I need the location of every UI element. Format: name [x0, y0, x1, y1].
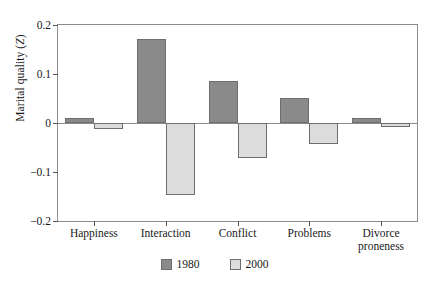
x-tick-mark — [381, 221, 382, 226]
bar-2000-conflict — [238, 123, 267, 158]
y-axis-title-italic: Z — [14, 38, 26, 45]
y-tick-label: 0 — [45, 117, 51, 129]
y-tick-label: 0.1 — [37, 68, 51, 80]
y-tick-mark — [53, 25, 58, 26]
legend-label: 1980 — [177, 258, 200, 270]
x-tick-label-line: proneness — [358, 240, 404, 253]
x-tick-label-line: Divorce — [363, 227, 400, 239]
x-tick-label-line: Conflict — [219, 227, 257, 239]
bar-1980-divorce-proneness — [352, 118, 381, 123]
x-tick-label-line: Happiness — [70, 227, 118, 239]
plot-area: 0.20.10−0.1−0.2HappinessInteractionConfl… — [58, 25, 417, 221]
y-tick-mark — [53, 221, 58, 222]
x-tick-label: Happiness — [70, 227, 118, 240]
bar-1980-interaction — [137, 39, 166, 123]
y-tick-mark — [53, 172, 58, 173]
x-tick-label-line: Interaction — [141, 227, 191, 239]
bar-2000-problems — [309, 123, 338, 144]
x-tick-mark — [94, 221, 95, 226]
legend-entry-2000[interactable]: 2000 — [230, 258, 269, 270]
y-tick-mark — [53, 74, 58, 75]
y-axis-title-prefix: Marital quality ( — [14, 45, 26, 122]
y-tick-label: 0.2 — [37, 19, 51, 31]
x-tick-label-line: Problems — [288, 227, 331, 239]
bar-2000-interaction — [166, 123, 195, 195]
x-tick-mark — [166, 221, 167, 226]
bar-2000-happiness — [94, 123, 123, 129]
x-tick-mark — [238, 221, 239, 226]
x-tick-label: Interaction — [141, 227, 191, 240]
x-tick-label: Problems — [288, 227, 331, 240]
y-axis-title: Marital quality (Z) — [14, 0, 30, 178]
legend-label: 2000 — [246, 258, 269, 270]
x-tick-label: Conflict — [219, 227, 257, 240]
x-tick-mark — [309, 221, 310, 226]
legend-swatch-icon — [161, 259, 172, 270]
y-axis-title-suffix: ) — [14, 34, 26, 38]
y-tick-label: −0.2 — [30, 215, 51, 227]
bar-1980-problems — [280, 98, 309, 123]
legend-entry-1980[interactable]: 1980 — [161, 258, 200, 270]
chart-legend: 19802000 — [0, 258, 429, 270]
plot-frame: 0.20.10−0.1−0.2HappinessInteractionConfl… — [57, 24, 418, 222]
y-tick-mark — [53, 123, 58, 124]
x-tick-label: Divorceproneness — [358, 227, 404, 253]
bar-1980-conflict — [209, 81, 238, 123]
legend-swatch-icon — [230, 259, 241, 270]
bar-1980-happiness — [65, 118, 94, 123]
chart-figure: Marital quality (Z) 0.20.10−0.1−0.2Happi… — [0, 0, 429, 282]
y-tick-label: −0.1 — [30, 166, 51, 178]
bar-2000-divorce-proneness — [381, 123, 410, 127]
